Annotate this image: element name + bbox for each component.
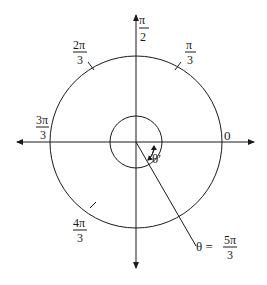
- svg-text:2π: 2π: [73, 38, 85, 52]
- label-zero: 0: [224, 128, 231, 143]
- svg-text:3: 3: [187, 53, 193, 67]
- label-theta-prime: θ′: [152, 151, 161, 166]
- svg-text:π: π: [186, 38, 192, 52]
- terminal-ray: [136, 142, 196, 246]
- svg-text:3: 3: [40, 128, 46, 142]
- label-4pi-over-3: 4π 3: [73, 216, 87, 245]
- svg-text:5π: 5π: [224, 233, 236, 247]
- svg-text:4π: 4π: [73, 216, 85, 230]
- svg-text:π: π: [139, 13, 145, 27]
- svg-text:3: 3: [77, 231, 83, 245]
- label-pi-over-2: π 2: [139, 13, 149, 44]
- svg-text:3: 3: [227, 248, 233, 262]
- unit-circle-diagram: 0 π 2 π 3 2π 3 3π 3 4π 3 θ′ θ = 5π 3: [0, 0, 267, 285]
- label-3pi-over-3: 3π 3: [36, 113, 49, 142]
- label-pi-over-3: π 3: [185, 38, 196, 67]
- svg-text:3: 3: [77, 53, 83, 67]
- tick-4pi-3: [90, 202, 96, 208]
- label-2pi-over-3: 2π 3: [73, 38, 87, 67]
- svg-text:3π: 3π: [36, 113, 48, 127]
- svg-text:θ =: θ =: [196, 239, 213, 254]
- svg-text:2: 2: [140, 30, 146, 44]
- label-theta-5pi-over-3: θ = 5π 3: [196, 233, 237, 262]
